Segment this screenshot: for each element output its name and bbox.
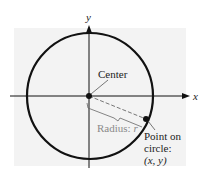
point-label-line2: circle:: [144, 142, 171, 154]
point-label-coords: (x, y): [144, 154, 167, 167]
x-axis-label: x: [192, 90, 198, 102]
y-axis-label: y: [85, 11, 91, 23]
radius-label: Radius: r: [97, 122, 138, 134]
circle-diagram: x y Center Radius: r Point on circle: (x…: [0, 0, 205, 183]
center-label: Center: [98, 68, 128, 80]
point-label-line1: Point on: [144, 130, 181, 142]
